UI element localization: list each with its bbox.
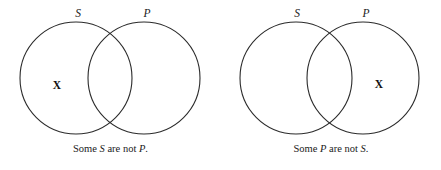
caption-suffix: . [145,143,148,154]
set-label-s: S [69,7,87,19]
diagram-caption: Some S are not P. [0,142,221,155]
caption-middle: are not [326,143,360,154]
x-marker: X [371,78,387,90]
caption-prefix: Some [73,143,100,154]
venn-diagram-right: S P X Some P are not S. [221,0,441,170]
circle-s [240,22,352,134]
circle-s [20,22,132,134]
diagram-caption: Some P are not S. [221,142,441,155]
circle-p [88,22,200,134]
circle-p [307,22,419,134]
venn-diagram-figure: S P X Some S are not P. S P X Some P are… [0,0,441,170]
caption-suffix: . [366,143,369,154]
venn-diagram-left: S P X Some S are not P. [0,0,221,170]
set-label-p: P [357,7,375,19]
x-marker: X [49,79,65,91]
set-label-s: S [288,7,306,19]
set-label-p: P [138,7,156,19]
caption-middle: are not [105,143,139,154]
caption-prefix: Some [294,143,321,154]
